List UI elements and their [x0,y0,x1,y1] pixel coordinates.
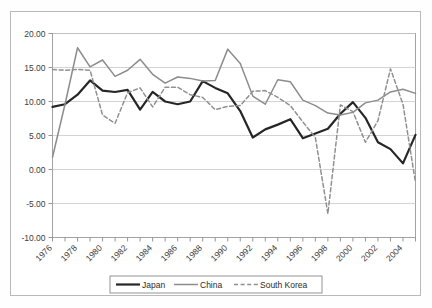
y-tick-label: 20.00 [24,29,46,39]
x-tick-label: 1986 [159,243,180,264]
legend-label-south-korea[interactable]: South Korea [260,280,308,290]
x-tick-label: 1992 [234,243,255,264]
y-tick-label: -5.00 [26,199,46,209]
x-tick-label: 1980 [84,243,105,264]
y-tick-label: 5.00 [29,131,46,141]
x-tick-label: 1978 [58,243,79,264]
legend-label-china[interactable]: China [200,280,222,290]
y-tick-label: 10.00 [24,97,46,107]
x-tick-label: 1994 [259,243,280,264]
y-tick-label: 15.00 [24,63,46,73]
x-tick-label: 1988 [184,243,205,264]
x-axis-ticks: 1976197819801982198419861988199019921994… [33,238,415,264]
y-tick-label: -10.00 [21,233,45,243]
legend-label-japan[interactable]: Japan [142,280,165,290]
x-tick-label: 1998 [309,243,330,264]
x-tick-label: 1984 [134,243,155,264]
x-tick-label: 1996 [284,243,305,264]
chart-screenshot: 20.0015.0010.005.000.00-5.00-10.00 19761… [0,0,432,308]
x-tick-label: 2004 [384,243,405,264]
line-chart: 20.0015.0010.005.000.00-5.00-10.00 19761… [0,0,432,308]
x-tick-label: 2000 [334,243,355,264]
x-tick-label: 1990 [209,243,230,264]
y-tick-label: 0.00 [29,165,46,175]
x-tick-label: 2002 [359,243,380,264]
y-axis-ticks: 20.0015.0010.005.000.00-5.00-10.00 [21,29,52,243]
chart-legend[interactable]: JapanChinaSouth Korea [110,276,322,293]
x-tick-label: 1976 [33,243,54,264]
x-tick-label: 1982 [109,243,130,264]
